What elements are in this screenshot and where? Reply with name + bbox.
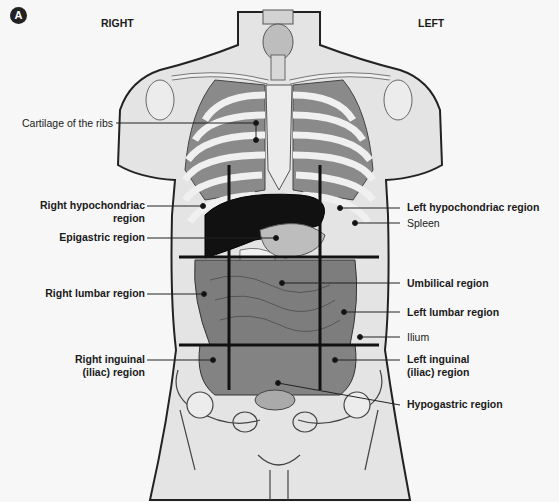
label-umbilical: Umbilical region <box>407 277 489 290</box>
torso-illustration <box>0 0 559 502</box>
label-left-hypochondriac: Left hypochondriac region <box>407 201 539 214</box>
label-right-hypochondriac: Right hypochondriac region <box>40 199 145 225</box>
label-spleen: Spleen <box>407 217 440 230</box>
label-cartilage-of-ribs: Cartilage of the ribs <box>22 117 113 130</box>
label-left-inguinal: Left inguinal (iliac) region <box>407 353 469 379</box>
label-right-inguinal: Right inguinal (iliac) region <box>75 353 145 379</box>
label-left-lumbar: Left lumbar region <box>407 306 499 319</box>
side-label-right: RIGHT <box>101 17 134 29</box>
side-label-left: LEFT <box>418 17 444 29</box>
label-right-lumbar: Right lumbar region <box>45 287 145 300</box>
label-hypogastric: Hypogastric region <box>407 398 503 411</box>
label-epigastric: Epigastric region <box>59 231 145 244</box>
abdominal-regions-diagram: A RIGHT LEFT Cartilage of the ribs Right… <box>0 0 559 502</box>
label-ilium: Ilium <box>407 331 429 344</box>
panel-label-badge: A <box>10 7 27 24</box>
